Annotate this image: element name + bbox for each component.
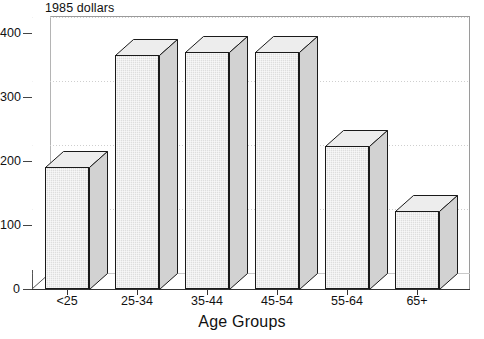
x-axis-label-<25: <25 <box>32 294 102 308</box>
bar-65+ <box>395 195 457 289</box>
bar-chart-figure: 1985 dollars 0100200300400 <2525-3435-44… <box>0 0 484 339</box>
y-axis-tick-depth-300 <box>32 81 44 93</box>
bar-face-side <box>300 37 318 290</box>
bar-55-64 <box>325 130 387 289</box>
y-axis-label-100: 100 <box>0 219 20 231</box>
x-axis-title: Age Groups <box>0 313 484 331</box>
y-axis-tick-0 <box>23 289 32 290</box>
y-axis-tick-200 <box>23 161 32 162</box>
bar-25-34 <box>115 39 177 289</box>
y-axis-label-300: 300 <box>0 91 20 103</box>
y-axis-tick-depth-400 <box>32 17 44 29</box>
x-axis-label-25-34: 25-34 <box>102 294 172 308</box>
chart-title: 1985 dollars <box>45 1 114 15</box>
x-axis-label-45-54: 45-54 <box>242 294 312 308</box>
gridline-400 <box>50 17 470 18</box>
bar-face-side <box>370 131 388 290</box>
bar-face-side <box>440 196 458 290</box>
y-axis-tick-depth-0 <box>32 273 44 285</box>
bar-face-front <box>255 52 299 289</box>
bar-face-front <box>45 167 89 289</box>
bar-face-front <box>185 52 229 289</box>
y-axis-label-0: 0 <box>0 283 20 295</box>
x-axis-label-35-44: 35-44 <box>172 294 242 308</box>
y-axis-tick-300 <box>23 97 32 98</box>
bar-face-side <box>90 152 108 290</box>
bar-<25 <box>45 151 107 289</box>
y-axis-tick-depth-100 <box>32 209 44 221</box>
bar-45-54 <box>255 36 317 289</box>
bar-face-side <box>160 40 178 290</box>
y-axis-tick-400 <box>23 33 32 34</box>
bar-face-front <box>115 55 159 289</box>
y-axis-label-200: 200 <box>0 155 20 167</box>
plot-frame-right <box>469 16 470 290</box>
x-axis-label-65+: 65+ <box>382 294 452 308</box>
bar-face-side <box>230 37 248 290</box>
y-axis-label-400: 400 <box>0 27 20 39</box>
bar-face-front <box>325 146 369 289</box>
y-axis-tick-100 <box>23 225 32 226</box>
bar-35-44 <box>185 36 247 289</box>
x-axis-label-55-64: 55-64 <box>312 294 382 308</box>
y-axis-tick-depth-200 <box>32 145 44 157</box>
bar-face-front <box>395 211 439 289</box>
